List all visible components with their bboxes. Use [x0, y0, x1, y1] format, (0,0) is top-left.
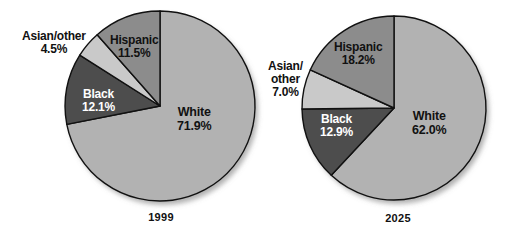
- slice-label-black-2025: Black 12.9%: [320, 113, 353, 139]
- pie-chart-figure: Asian/other 4.5% Hispanic 11.5% Black 12…: [0, 0, 513, 239]
- slice-pct-hispanic-2025: 18.2%: [334, 54, 382, 67]
- slice-name-asian-other-2025-line2: other: [268, 73, 303, 86]
- slice-pct-black-2025: 12.9%: [320, 126, 353, 139]
- slice-pct-asian-other-2025: 7.0%: [268, 86, 303, 99]
- slice-label-white-2025: White 62.0%: [412, 110, 446, 137]
- slice-name-hispanic-2025: Hispanic: [334, 41, 382, 54]
- slice-pct-white-2025: 62.0%: [412, 124, 446, 138]
- slice-name-white-2025: White: [412, 110, 446, 124]
- slice-label-asian-other-2025: Asian/ other 7.0%: [268, 60, 303, 99]
- slice-name-asian-other-2025-line1: Asian/: [268, 60, 303, 73]
- slice-name-black-2025: Black: [320, 113, 353, 126]
- slice-label-hispanic-2025: Hispanic 18.2%: [334, 41, 382, 67]
- pie-2025-year-label: 2025: [377, 212, 419, 224]
- pie-2025-slices: [302, 16, 486, 200]
